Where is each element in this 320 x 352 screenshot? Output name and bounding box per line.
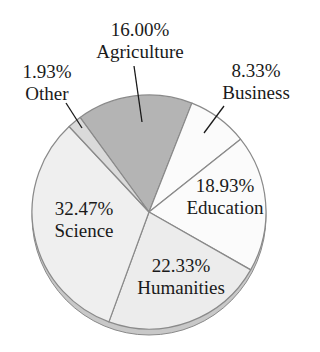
label-humanities-pct: 22.33% — [137, 255, 225, 276]
label-agriculture-pct: 16.00% — [96, 19, 184, 40]
label-business-name: Business — [222, 82, 290, 103]
label-science: 32.47% Science — [54, 198, 113, 241]
label-education-name: Education — [186, 197, 263, 218]
label-business-pct: 8.33% — [222, 60, 290, 81]
label-business: 8.33% Business — [222, 60, 290, 103]
label-education-pct: 18.93% — [186, 175, 263, 196]
label-other-pct: 1.93% — [22, 61, 71, 82]
label-agriculture-name: Agriculture — [96, 41, 184, 62]
label-humanities-name: Humanities — [137, 277, 225, 298]
label-agriculture: 16.00% Agriculture — [96, 19, 184, 62]
label-other-name: Other — [22, 83, 71, 104]
label-science-name: Science — [54, 220, 113, 241]
label-humanities: 22.33% Humanities — [137, 255, 225, 298]
label-education: 18.93% Education — [186, 175, 263, 218]
label-other: 1.93% Other — [22, 61, 71, 104]
label-science-pct: 32.47% — [54, 198, 113, 219]
